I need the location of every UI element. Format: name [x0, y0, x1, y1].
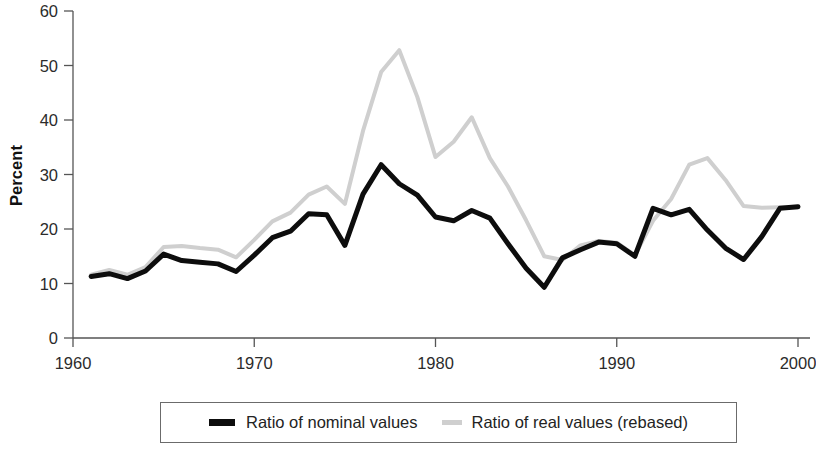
chart-legend: Ratio of nominal values Ratio of real va…: [160, 402, 737, 443]
data-series-layer: [91, 50, 798, 287]
svg-text:0: 0: [49, 329, 58, 347]
legend-item-nominal: Ratio of nominal values: [209, 413, 418, 432]
svg-text:20: 20: [40, 220, 58, 238]
series-line-nominal: [91, 165, 798, 288]
svg-text:10: 10: [40, 275, 58, 293]
line-chart: Percent 0102030405060 196019701980199020…: [0, 0, 816, 453]
legend-label-real: Ratio of real values (rebased): [472, 413, 688, 432]
svg-text:50: 50: [40, 57, 58, 75]
svg-text:1990: 1990: [598, 354, 635, 372]
svg-text:1980: 1980: [417, 354, 454, 372]
plot-area: 0102030405060 19601970198019902000: [0, 0, 816, 400]
legend-label-nominal: Ratio of nominal values: [246, 413, 418, 432]
svg-text:1960: 1960: [55, 354, 92, 372]
legend-item-real: Ratio of real values (rebased): [438, 413, 688, 432]
x-axis-ticks: 19601970198019902000: [55, 338, 816, 372]
svg-text:40: 40: [40, 111, 58, 129]
svg-text:2000: 2000: [780, 354, 816, 372]
y-axis-ticks: 0102030405060: [40, 2, 73, 347]
svg-text:1970: 1970: [236, 354, 273, 372]
legend-swatch-real-icon: [442, 420, 462, 425]
series-line-real: [91, 50, 798, 275]
svg-text:60: 60: [40, 2, 58, 20]
legend-swatch-nominal-icon: [209, 419, 235, 426]
svg-text:30: 30: [40, 166, 58, 184]
